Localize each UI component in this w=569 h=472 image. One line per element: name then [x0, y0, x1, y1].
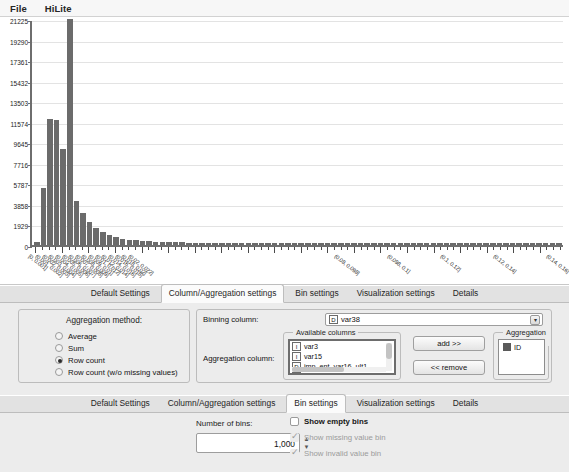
plot-area[interactable]: 2122519290173611543213503115749645771657… [30, 21, 563, 247]
histogram-bar[interactable] [503, 243, 509, 245]
histogram-bar[interactable] [239, 243, 245, 245]
histogram-bar[interactable] [206, 243, 212, 245]
histogram-bar[interactable] [378, 243, 384, 245]
histogram-bar[interactable] [510, 243, 516, 245]
histogram-bar[interactable] [259, 243, 265, 245]
tab-visualization-settings[interactable]: Visualization settings [350, 395, 442, 412]
histogram-bar[interactable] [431, 243, 437, 245]
available-columns-scrollbar-vertical[interactable] [386, 343, 392, 371]
radio-average[interactable]: Average [19, 330, 189, 342]
histogram-bar[interactable] [67, 19, 73, 245]
histogram-bar[interactable] [477, 243, 483, 245]
histogram-bar[interactable] [107, 235, 113, 245]
list-item[interactable]: Ivar3 [290, 341, 394, 351]
histogram-bar[interactable] [272, 243, 278, 245]
histogram-bar[interactable] [212, 243, 218, 245]
histogram-bar[interactable] [127, 240, 133, 245]
histogram-bar[interactable] [166, 242, 172, 245]
histogram-bar[interactable] [74, 201, 80, 245]
tab-details[interactable]: Details [446, 395, 486, 412]
histogram-bar[interactable] [41, 188, 47, 245]
radio-indicator[interactable] [55, 356, 63, 364]
chevron-down-icon[interactable]: ▾ [530, 315, 540, 325]
histogram-bar[interactable] [265, 243, 271, 245]
histogram-bar[interactable] [536, 243, 542, 245]
histogram-bar[interactable] [312, 243, 318, 245]
tab-details[interactable]: Details [446, 285, 486, 302]
histogram-bar[interactable] [279, 243, 285, 245]
histogram-bar[interactable] [497, 243, 503, 245]
histogram-bar[interactable] [331, 243, 337, 245]
aggregation-columns-list[interactable]: ID [498, 339, 545, 375]
remove-column-button[interactable]: << remove [413, 360, 485, 375]
histogram-bar[interactable] [80, 213, 86, 245]
histogram-bar[interactable] [543, 243, 549, 245]
histogram-bar[interactable] [523, 243, 529, 245]
histogram-bar[interactable] [490, 243, 496, 245]
histogram-bar[interactable] [252, 243, 258, 245]
histogram-bar[interactable] [113, 237, 119, 245]
available-columns-list[interactable]: Ivar3Ivar15Dimp_ent_var16_ult1Dimp_op_va… [288, 339, 396, 375]
histogram-bar[interactable] [358, 243, 364, 245]
histogram-bar[interactable] [93, 228, 99, 245]
histogram-bar[interactable] [550, 243, 556, 245]
list-item[interactable]: Ivar15 [290, 351, 394, 361]
histogram-bar[interactable] [345, 243, 351, 245]
add-column-button[interactable]: add >> [413, 336, 485, 351]
radio-row-count[interactable]: Row count [19, 354, 189, 366]
checkbox-show-empty-bins[interactable]: Show empty bins [290, 417, 368, 426]
radio-row-count-w-o-missing-values[interactable]: Row count (w/o missing values) [19, 366, 189, 378]
histogram-bar[interactable] [146, 241, 152, 245]
tab-bin-settings[interactable]: Bin settings [286, 394, 345, 413]
histogram-bar[interactable] [351, 243, 357, 245]
radio-indicator[interactable] [55, 368, 63, 376]
histogram-bar[interactable] [404, 243, 410, 245]
tab-bin-settings[interactable]: Bin settings [288, 285, 345, 302]
menu-item-hilite[interactable]: HiLite [43, 2, 74, 15]
histogram-bar[interactable] [464, 243, 470, 245]
tabstrip-bin-settings[interactable]: Default SettingsColumn/Aggregation setti… [0, 395, 569, 413]
histogram-bar[interactable] [292, 243, 298, 245]
histogram-bar[interactable] [444, 243, 450, 245]
histogram-bar[interactable] [398, 243, 404, 245]
histogram-bar[interactable] [87, 222, 93, 245]
histogram-bar[interactable] [285, 243, 291, 245]
histogram-bar[interactable] [556, 243, 562, 245]
tab-column-aggregation-settings[interactable]: Column/Aggregation settings [161, 284, 285, 303]
histogram-bar[interactable] [193, 243, 199, 245]
histogram-bar[interactable] [153, 242, 159, 245]
histogram-bar[interactable] [199, 243, 205, 245]
histogram-bar[interactable] [47, 119, 53, 245]
list-item[interactable]: ID [501, 342, 542, 352]
aggregation-method-radiogroup[interactable]: AverageSumRow countRow count (w/o missin… [19, 330, 189, 378]
histogram-bar[interactable] [424, 243, 430, 245]
histogram-bar[interactable] [338, 243, 344, 245]
histogram-bars[interactable] [34, 21, 563, 245]
histogram-bar[interactable] [530, 243, 536, 245]
radio-indicator[interactable] [55, 344, 63, 352]
tab-default-settings[interactable]: Default Settings [84, 285, 157, 302]
histogram-bar[interactable] [298, 243, 304, 245]
histogram-bar[interactable] [226, 243, 232, 245]
histogram-bar[interactable] [232, 243, 238, 245]
tab-visualization-settings[interactable]: Visualization settings [350, 285, 442, 302]
histogram-bar[interactable] [411, 243, 417, 245]
histogram-bar[interactable] [173, 242, 179, 245]
histogram-bar[interactable] [457, 243, 463, 245]
scrollbar-thumb-horizontal[interactable] [292, 367, 344, 372]
binning-column-combo[interactable]: D var38 ▾ [325, 313, 543, 326]
number-of-bins-input[interactable]: 1,000 [196, 433, 300, 453]
histogram-bar[interactable] [186, 243, 192, 246]
scrollbar-thumb-vertical[interactable] [386, 343, 392, 359]
radio-indicator[interactable] [55, 332, 63, 340]
histogram-bar[interactable] [371, 243, 377, 245]
histogram-bar[interactable] [483, 243, 489, 245]
histogram-bar[interactable] [417, 243, 423, 245]
histogram-bar[interactable] [60, 149, 66, 245]
histogram-bar[interactable] [133, 240, 139, 245]
histogram-bar[interactable] [364, 243, 370, 245]
histogram-bar[interactable] [318, 243, 324, 245]
histogram-bar[interactable] [219, 243, 225, 245]
histogram-bar[interactable] [516, 243, 522, 245]
histogram-bar[interactable] [34, 242, 40, 245]
